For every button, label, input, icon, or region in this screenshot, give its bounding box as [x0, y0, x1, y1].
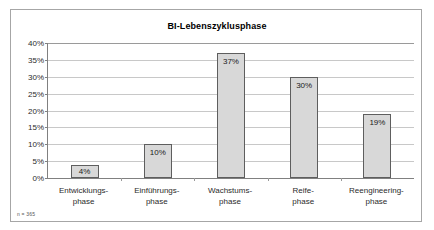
- bar-value-label: 10%: [145, 148, 171, 157]
- x-axis-category-label-line: Reengineering-: [340, 185, 413, 196]
- x-axis-category-label-line: Entwicklungs-: [47, 185, 120, 196]
- bar-value-label: 4%: [72, 167, 98, 176]
- x-axis-category-label-line: Wachstums-: [193, 185, 266, 196]
- x-axis-category-label-line: phase: [193, 196, 266, 207]
- sample-size-footnote: n = 365: [17, 211, 35, 217]
- bar[interactable]: 30%: [290, 77, 318, 178]
- bars-layer: 4%10%37%30%19%: [48, 43, 414, 178]
- category-divider-tick: [121, 178, 122, 181]
- y-axis-tick-label: 0%: [32, 174, 44, 183]
- category-divider-tick: [194, 178, 195, 181]
- category-divider-tick: [341, 178, 342, 181]
- x-axis-category-label: Reengineering-phase: [340, 182, 413, 216]
- x-axis-category-label-line: phase: [340, 196, 413, 207]
- x-axis-category-label: Reife-phase: [267, 182, 340, 216]
- bar-value-label: 37%: [218, 57, 244, 66]
- plot-area: 0%5%10%15%20%25%30%35%40% 4%10%37%30%19%: [47, 43, 414, 179]
- bar-slot: 4%: [48, 43, 121, 178]
- x-axis-category-label-line: phase: [120, 196, 193, 207]
- bar[interactable]: 10%: [144, 144, 172, 178]
- x-axis-category-label-line: Einführungs-: [120, 185, 193, 196]
- x-axis-category-label: Wachstums-phase: [193, 182, 266, 216]
- bar[interactable]: 37%: [217, 53, 245, 178]
- bar-slot: 30%: [268, 43, 341, 178]
- y-axis-tick-label: 30%: [28, 72, 44, 81]
- bar-value-label: 19%: [364, 118, 390, 127]
- x-axis-category-label-line: phase: [47, 196, 120, 207]
- y-axis-tick-label: 20%: [28, 106, 44, 115]
- bar[interactable]: 19%: [363, 114, 391, 178]
- bar[interactable]: 4%: [71, 165, 99, 179]
- y-axis-tick-label: 5%: [32, 157, 44, 166]
- y-axis-tick-label: 10%: [28, 140, 44, 149]
- bar-slot: 10%: [121, 43, 194, 178]
- bar-slot: 19%: [341, 43, 414, 178]
- y-axis-tick-label: 40%: [28, 39, 44, 48]
- bar-value-label: 30%: [291, 81, 317, 90]
- y-axis-tick-label: 15%: [28, 123, 44, 132]
- x-axis-category-label: Entwicklungs-phase: [47, 182, 120, 216]
- x-axis-category-label: Einführungs-phase: [120, 182, 193, 216]
- x-axis-category-labels: Entwicklungs-phaseEinführungs-phaseWachs…: [47, 182, 413, 216]
- chart-figure: BI-Lebenszyklusphase 0%5%10%15%20%25%30%…: [10, 9, 422, 222]
- y-axis-tick-mark: [45, 178, 48, 179]
- category-divider-tick: [268, 178, 269, 181]
- chart-title: BI-Lebenszyklusphase: [11, 21, 423, 31]
- x-axis-category-label-line: phase: [267, 196, 340, 207]
- x-axis-category-label-line: Reife-: [267, 185, 340, 196]
- y-axis-tick-label: 35%: [28, 55, 44, 64]
- y-axis-tick-label: 25%: [28, 89, 44, 98]
- bar-slot: 37%: [194, 43, 267, 178]
